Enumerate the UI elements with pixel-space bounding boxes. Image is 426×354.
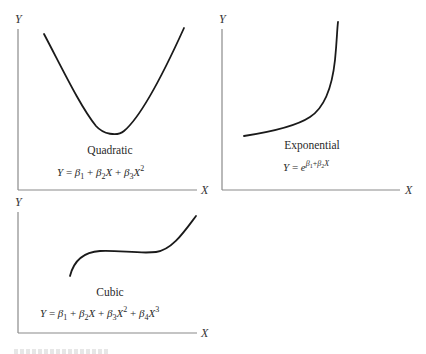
quadratic-curve xyxy=(44,28,184,134)
exponential-curve xyxy=(244,22,338,136)
quadratic-equation: Y = β1 + β2X + β3X2 xyxy=(57,164,144,181)
exponential-panel: Y X Exponential Y = eβ1+β2X xyxy=(219,12,413,197)
panel-title: Quadratic xyxy=(87,144,132,156)
panel-title: Exponential xyxy=(284,139,340,152)
quadratic-panel: Y X Quadratic Y = β1 + β2X + β3X2 xyxy=(15,12,209,197)
regression-forms-diagram: Y X Quadratic Y = β1 + β2X + β3X2 Y X Ex… xyxy=(0,0,426,354)
exponential-equation: Y = eβ1+β2X xyxy=(283,159,330,173)
x-axis-label: X xyxy=(404,183,413,197)
x-axis-label: X xyxy=(200,183,209,197)
cropped-caption-line xyxy=(14,349,109,354)
cubic-panel: Y X Cubic Y = β1 + β2X + β3X2 + β4X3 xyxy=(15,195,209,340)
y-axis-label: Y xyxy=(219,12,227,26)
y-axis-label: Y xyxy=(15,12,23,26)
y-axis-label: Y xyxy=(15,195,23,209)
cubic-equation: Y = β1 + β2X + β3X2 + β4X3 xyxy=(40,305,159,322)
cubic-curve xyxy=(70,216,196,276)
x-axis-label: X xyxy=(200,326,209,340)
panel-title: Cubic xyxy=(96,286,123,298)
